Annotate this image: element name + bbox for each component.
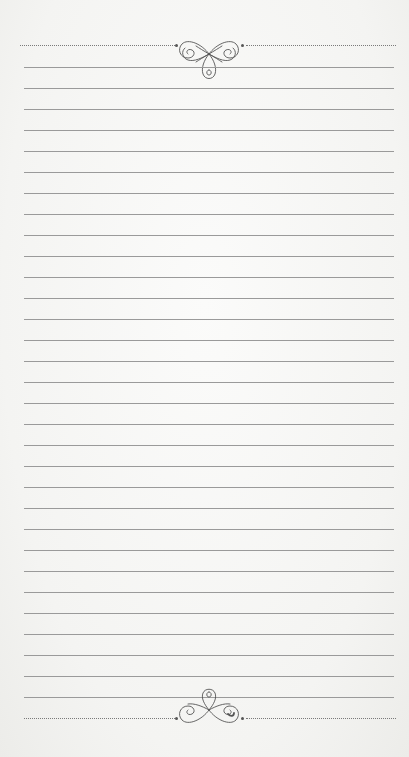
ruled-line [24, 319, 394, 320]
ruled-line [24, 655, 394, 656]
ruled-line [24, 340, 394, 341]
ruled-line [24, 109, 394, 110]
bottom-dotted-border-left [24, 718, 175, 719]
ruled-line [24, 298, 394, 299]
ruled-line [24, 487, 394, 488]
ruled-line [24, 613, 394, 614]
ruled-line [24, 445, 394, 446]
ruled-line [24, 550, 394, 551]
ruled-line [24, 466, 394, 467]
ruled-line [24, 361, 394, 362]
ruled-line [24, 151, 394, 152]
ruled-line [24, 634, 394, 635]
notepaper-page [0, 0, 409, 757]
bottom-flourish-ornament-icon [176, 688, 242, 732]
ruled-line [24, 529, 394, 530]
ruled-line [24, 676, 394, 677]
ruled-line [24, 508, 394, 509]
ruled-line [24, 424, 394, 425]
ruled-line [24, 382, 394, 383]
ruled-line [24, 277, 394, 278]
ruled-line [24, 88, 394, 89]
ruled-line [24, 214, 394, 215]
ruled-line [24, 592, 394, 593]
ruled-line [24, 403, 394, 404]
ruled-line [24, 130, 394, 131]
ruled-line [24, 571, 394, 572]
bottom-dotted-border-right [246, 718, 396, 719]
ruled-line [24, 256, 394, 257]
ruled-line [24, 235, 394, 236]
ruled-line [24, 67, 394, 68]
ruled-line [24, 193, 394, 194]
ruled-line [24, 172, 394, 173]
ruled-lines [0, 0, 409, 757]
